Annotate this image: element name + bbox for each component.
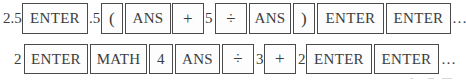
enter-key[interactable]: ENTER <box>374 44 439 74</box>
number-text: 2.5 <box>3 3 22 34</box>
number-text: 2 <box>14 44 22 74</box>
scan-artifact <box>428 78 434 79</box>
enter-key[interactable]: ENTER <box>317 3 384 34</box>
enter-key[interactable]: ENTER <box>386 3 451 34</box>
scan-artifact <box>410 78 413 79</box>
scan-artifact <box>442 78 452 79</box>
ans-key[interactable]: ANS <box>175 44 220 74</box>
number-text: 2 <box>298 44 306 74</box>
keystroke-sequence-row-2: 2 ENTER MATH 4 ANS ÷ 3 + 2 ENTER ENTER … <box>0 44 466 74</box>
math-key[interactable]: MATH <box>90 44 147 74</box>
open-paren-key[interactable]: ( <box>101 3 123 34</box>
plus-key[interactable]: + <box>172 3 204 34</box>
four-key[interactable]: 4 <box>149 44 173 74</box>
keystroke-sequence-row-1: 2.5 ENTER .5 ( ANS + 5 ÷ ANS ) ENTER ENT… <box>0 3 466 34</box>
number-text: .5 <box>89 3 100 34</box>
ans-key[interactable]: ANS <box>249 3 291 34</box>
divide-key[interactable]: ÷ <box>222 44 254 74</box>
plus-key[interactable]: + <box>264 44 296 74</box>
enter-key[interactable]: ENTER <box>22 3 88 34</box>
number-text: 5 <box>205 3 213 34</box>
enter-key[interactable]: ENTER <box>306 44 372 74</box>
enter-key[interactable]: ENTER <box>24 44 88 74</box>
ans-key[interactable]: ANS <box>125 3 171 34</box>
close-paren-key[interactable]: ) <box>293 3 315 34</box>
divide-key[interactable]: ÷ <box>215 3 247 34</box>
ellipsis-text: … <box>441 44 456 74</box>
number-text: 3 <box>256 44 264 74</box>
ellipsis-text: … <box>452 3 466 34</box>
